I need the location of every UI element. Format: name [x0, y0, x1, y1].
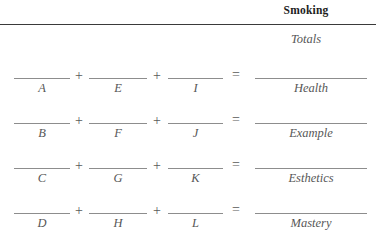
plus-operator: +	[149, 203, 165, 219]
blank-line-term1[interactable]	[14, 123, 70, 124]
plus-operator: +	[149, 113, 165, 129]
blank-label-term2: F	[89, 126, 147, 141]
blank-label-term2: G	[89, 171, 147, 186]
blank-label-term1: D	[14, 216, 70, 231]
blank-line-term2[interactable]	[89, 213, 147, 214]
plus-operator: +	[71, 68, 87, 84]
blank-label-total: Health	[255, 81, 367, 96]
blank-label-term3: I	[168, 81, 223, 96]
blank-line-total[interactable]	[255, 78, 367, 79]
blank-label-term3: J	[168, 126, 223, 141]
blank-line-term1[interactable]	[14, 78, 70, 79]
blank-label-term1: B	[14, 126, 70, 141]
blank-line-term2[interactable]	[89, 78, 147, 79]
blank-line-term3[interactable]	[168, 168, 223, 169]
table-row: A + E + I = Health	[0, 64, 376, 109]
blank-line-term3[interactable]	[168, 78, 223, 79]
blank-label-term2: H	[89, 216, 147, 231]
blank-label-term3: L	[168, 216, 223, 231]
blank-line-term2[interactable]	[89, 168, 147, 169]
blank-line-term3[interactable]	[168, 213, 223, 214]
blank-line-term1[interactable]	[14, 168, 70, 169]
equals-operator: =	[228, 157, 244, 173]
equation-rows: A + E + I = Health B + F + J = Example C…	[0, 0, 376, 248]
blank-line-term1[interactable]	[14, 213, 70, 214]
plus-operator: +	[149, 158, 165, 174]
blank-label-term1: C	[14, 171, 70, 186]
equals-operator: =	[228, 202, 244, 218]
plus-operator: +	[71, 158, 87, 174]
plus-operator: +	[149, 68, 165, 84]
blank-label-term2: E	[89, 81, 147, 96]
blank-line-term3[interactable]	[168, 123, 223, 124]
blank-line-total[interactable]	[255, 123, 367, 124]
equals-operator: =	[228, 67, 244, 83]
equals-operator: =	[228, 112, 244, 128]
blank-label-term3: K	[168, 171, 223, 186]
blank-label-term1: A	[14, 81, 70, 96]
blank-label-total: Mastery	[255, 216, 367, 231]
table-row: D + H + L = Mastery	[0, 199, 376, 244]
plus-operator: +	[71, 113, 87, 129]
plus-operator: +	[71, 203, 87, 219]
blank-line-term2[interactable]	[89, 123, 147, 124]
blank-line-total[interactable]	[255, 213, 367, 214]
blank-label-total: Esthetics	[255, 171, 367, 186]
table-row: C + G + K = Esthetics	[0, 154, 376, 199]
table-row: B + F + J = Example	[0, 109, 376, 154]
blank-label-total: Example	[255, 126, 367, 141]
blank-line-total[interactable]	[255, 168, 367, 169]
